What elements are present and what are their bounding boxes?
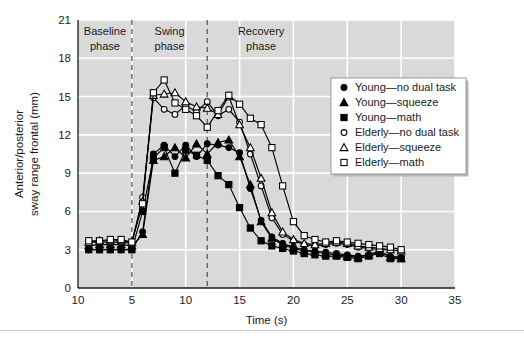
phase-label-line1: Swing: [155, 25, 185, 37]
data-point-filled-square: [183, 147, 189, 153]
data-point-open-square: [140, 201, 146, 207]
legend-item[interactable]: Elderly—no dual task: [341, 126, 459, 138]
data-point-filled-square: [258, 238, 264, 244]
data-point-open-square: [172, 100, 178, 106]
x-tick-label: 10: [72, 294, 85, 306]
y-tick-labels: 036912151821: [58, 14, 71, 294]
x-tick-label: 30: [395, 294, 408, 306]
phase-label-line1: Baseline: [84, 25, 126, 37]
legend-item-label: Young—squeeze: [355, 96, 438, 108]
data-point-open-square: [341, 159, 347, 165]
legend-item-label: Young—no dual task: [355, 81, 457, 93]
x-tick-label: 15: [233, 294, 246, 306]
data-point-filled-square: [193, 152, 199, 158]
data-point-open-square: [344, 239, 350, 245]
x-tick-label: 10: [179, 294, 192, 306]
data-point-open-square: [387, 244, 393, 250]
data-point-open-circle: [172, 112, 178, 118]
data-point-open-square: [150, 90, 156, 96]
x-tick-label: 20: [287, 294, 300, 306]
data-point-open-square: [193, 113, 199, 119]
data-point-filled-square: [107, 247, 113, 253]
phase-label-line2: phase: [246, 40, 276, 52]
data-point-open-square: [215, 108, 221, 114]
data-point-filled-square: [226, 182, 232, 188]
data-point-open-square: [398, 247, 404, 253]
y-tick-label: 21: [58, 14, 71, 26]
data-point-open-square: [312, 236, 318, 242]
data-point-open-square: [377, 243, 383, 249]
y-tick-label: 0: [65, 282, 71, 294]
data-point-open-square: [183, 106, 189, 112]
data-point-filled-circle: [204, 141, 210, 147]
data-point-filled-square: [344, 254, 350, 260]
legend-item[interactable]: Elderly—squeeze: [340, 141, 441, 153]
data-point-filled-square: [236, 205, 242, 211]
data-point-open-square: [290, 219, 296, 225]
data-point-filled-square: [387, 256, 393, 262]
figure-bottom-rule: [0, 330, 524, 331]
data-point-filled-square: [366, 253, 372, 259]
legend-item[interactable]: Young—squeeze: [340, 96, 438, 108]
data-point-filled-square: [290, 248, 296, 254]
data-point-filled-square: [341, 114, 347, 120]
legend-item-label: Elderly—math: [355, 156, 424, 168]
phase-label-line1: Recovery: [238, 25, 285, 37]
legend-item-label: Young—math: [355, 111, 421, 123]
data-point-filled-circle: [172, 154, 178, 160]
data-point-filled-circle: [226, 145, 232, 151]
legend-item-label: Elderly—squeeze: [355, 141, 441, 153]
y-axis-title: Anterior/posteriorsway range frontal (mm…: [13, 92, 40, 216]
x-tick-labels: 105101520253035: [72, 294, 462, 306]
data-point-open-square: [355, 240, 361, 246]
phase-label-line2: phase: [90, 40, 120, 52]
data-point-filled-square: [323, 253, 329, 259]
data-point-open-square: [96, 238, 102, 244]
data-point-filled-square: [118, 247, 124, 253]
data-point-filled-square: [247, 225, 253, 231]
data-point-filled-square: [215, 173, 221, 179]
y-tick-label: 15: [58, 91, 71, 103]
data-point-open-square: [247, 115, 253, 121]
legend-item[interactable]: Young—no dual task: [341, 81, 457, 93]
data-point-open-square: [107, 236, 113, 242]
y-axis-title-line2: sway range frontal (mm): [28, 92, 40, 216]
legend: Young—no dual taskYoung—squeezeYoung—mat…: [331, 78, 469, 177]
data-point-filled-square: [129, 247, 135, 253]
data-point-open-square: [161, 77, 167, 83]
y-tick-label: 12: [58, 129, 71, 141]
y-tick-label: 6: [65, 205, 71, 217]
data-point-open-square: [129, 239, 135, 245]
data-point-open-square: [301, 233, 307, 239]
data-point-filled-square: [269, 243, 275, 249]
data-point-open-circle: [226, 106, 232, 112]
data-point-filled-square: [86, 247, 92, 253]
data-point-filled-square: [333, 253, 339, 259]
data-point-open-square: [258, 122, 264, 128]
data-point-open-circle: [341, 130, 347, 136]
data-point-open-square: [333, 238, 339, 244]
data-point-open-square: [204, 124, 210, 130]
data-point-open-square: [86, 238, 92, 244]
data-point-filled-square: [96, 247, 102, 253]
x-tick-label: 35: [449, 294, 462, 306]
y-tick-label: 9: [65, 167, 71, 179]
sway-range-line-chart: 036912151821105101520253035Time (s)Anter…: [0, 0, 524, 339]
data-point-filled-circle: [341, 85, 347, 91]
data-point-filled-square: [280, 245, 286, 251]
data-point-open-square: [366, 242, 372, 248]
data-point-filled-square: [204, 157, 210, 163]
y-axis-title-line1: Anterior/posterior: [13, 110, 25, 198]
legend-item-label: Elderly—no dual task: [355, 126, 459, 138]
data-point-filled-square: [150, 155, 156, 161]
y-tick-label: 3: [65, 244, 71, 256]
data-point-open-square: [226, 92, 232, 98]
data-point-open-square: [323, 239, 329, 245]
figure-container: 036912151821105101520253035Time (s)Anter…: [0, 0, 524, 339]
data-point-filled-square: [312, 252, 318, 258]
data-point-open-square: [269, 145, 275, 151]
phase-label-line2: phase: [155, 40, 185, 52]
data-point-filled-square: [398, 256, 404, 262]
x-axis-title: Time (s): [246, 314, 288, 326]
x-tick-label: 25: [341, 294, 354, 306]
